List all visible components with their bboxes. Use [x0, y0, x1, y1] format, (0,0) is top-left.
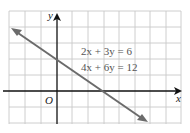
- x-axis-label: x: [175, 92, 181, 104]
- y-axis-label: y: [47, 9, 53, 21]
- equation-2: 4x + 6y = 12: [81, 61, 137, 73]
- equation-1: 2x + 3y = 6: [81, 45, 132, 57]
- origin-label: O: [45, 94, 53, 106]
- coordinate-plane: 2x + 3y = 6 4x + 6y = 12 y x O: [0, 0, 190, 133]
